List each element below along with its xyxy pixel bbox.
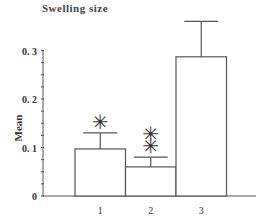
bar-3 bbox=[176, 57, 227, 196]
y-tick-label: 0 bbox=[32, 191, 37, 202]
bar-1 bbox=[75, 149, 126, 196]
y-tick-label: 0. 1 bbox=[22, 143, 37, 154]
x-tick-label: 1 bbox=[98, 205, 103, 216]
bar-chart: 00. 10. 20. 3123✳✳✳ bbox=[0, 0, 272, 218]
significance-asterisk: ✳ bbox=[142, 122, 159, 146]
y-tick-label: 0. 3 bbox=[22, 46, 37, 57]
y-tick-label: 0. 2 bbox=[22, 94, 37, 105]
bar-2 bbox=[126, 167, 177, 196]
x-tick-label: 2 bbox=[148, 205, 153, 216]
significance-asterisk: ✳ bbox=[92, 110, 109, 134]
x-tick-label: 3 bbox=[199, 205, 204, 216]
